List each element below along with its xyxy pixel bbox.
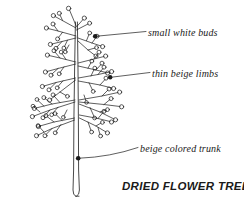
leader-line-buds — [97, 32, 147, 37]
figure-title: DRIED FLOWER TREE — [122, 180, 244, 192]
annotation-leaders — [80, 32, 151, 159]
branch-tier-apex — [51, 6, 91, 30]
tree-trunk — [73, 22, 79, 196]
leader-line-limbs — [112, 73, 151, 78]
anchor-dot-buds — [93, 34, 98, 39]
annotation-label-beige-colored-trunk: beige colored trunk — [140, 143, 221, 154]
anchor-dot-trunk — [76, 156, 81, 161]
annotation-label-small-white-buds: small white buds — [148, 27, 218, 38]
annotation-label-thin-beige-limbs: thin beige limbs — [152, 68, 218, 79]
anchor-dot-limbs — [108, 75, 112, 79]
illustration-page: small white buds thin beige limbs beige … — [0, 0, 244, 211]
leader-line-trunk — [80, 148, 139, 159]
